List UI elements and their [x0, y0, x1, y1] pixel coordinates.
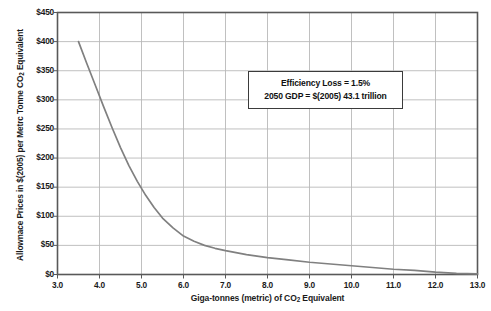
annotation-box: Efficiency Loss = 1.5% 2050 GDP = $(2005…: [248, 71, 403, 109]
vertical-gridlines: [100, 13, 436, 275]
annotation-line-gdp: 2050 GDP = $(2005) 43.1 trillion: [264, 91, 386, 102]
chart-container: Allownace Prices in $(2005) per Metrc To…: [0, 0, 491, 311]
plot-area: [0, 0, 491, 311]
annotation-line-efficiency-loss: Efficiency Loss = 1.5%: [281, 78, 370, 89]
axis-tick-marks: [54, 13, 478, 279]
